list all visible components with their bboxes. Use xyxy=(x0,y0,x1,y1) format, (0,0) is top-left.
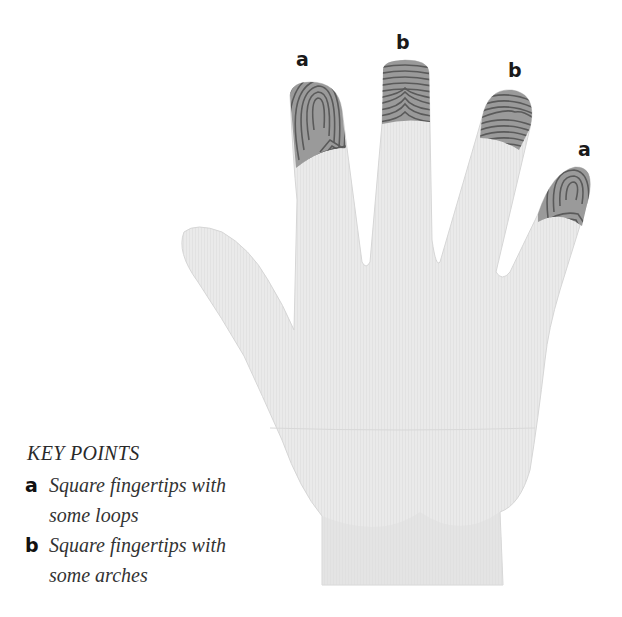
key-letter: a xyxy=(25,470,49,500)
finger-label-middle: b xyxy=(396,33,410,52)
finger-label-index: a xyxy=(296,50,309,69)
finger-label-ring: b xyxy=(508,61,522,80)
middle-fingertip-arch-print xyxy=(378,55,436,127)
hand-diagram: a b b a KEY POINTS a Square fingertips w… xyxy=(0,0,622,617)
key-points-legend: KEY POINTS a Square fingertips with some… xyxy=(25,440,285,590)
key-item-b: b Square fingertips with some arches xyxy=(25,530,285,590)
finger-label-little: a xyxy=(578,140,591,159)
key-description: Square fingertips with some arches xyxy=(49,530,259,590)
key-description: Square fingertips with some loops xyxy=(49,470,259,530)
key-item-a: a Square fingertips with some loops xyxy=(25,470,285,530)
key-points-title: KEY POINTS xyxy=(27,440,285,466)
key-letter: b xyxy=(25,530,49,560)
